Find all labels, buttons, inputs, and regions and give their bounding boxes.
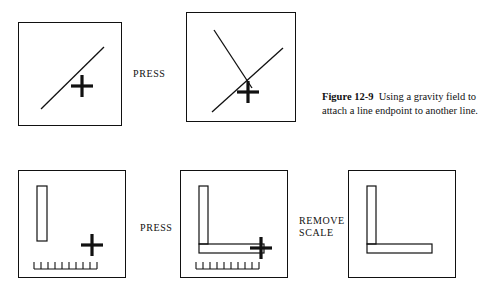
figure-number: Figure 12-9 <box>322 91 373 102</box>
press-label-2: PRESS <box>140 222 172 234</box>
figure-stage: PRESS PRESS REMOVE SCALE Figure 12-9 Usi… <box>0 0 488 304</box>
press-label-1: PRESS <box>133 68 165 80</box>
figure-caption: Figure 12-9 Using a gravity field to att… <box>322 90 480 117</box>
panel-line-with-cursor <box>18 22 122 126</box>
remove-scale-label: REMOVE SCALE <box>299 215 345 239</box>
panel-vertical-bar-with-scale <box>18 170 126 278</box>
panel-two-lines-joined <box>186 12 296 122</box>
panel-lshape-result <box>348 170 456 278</box>
panel-bar-attached-to-scale <box>180 170 288 278</box>
